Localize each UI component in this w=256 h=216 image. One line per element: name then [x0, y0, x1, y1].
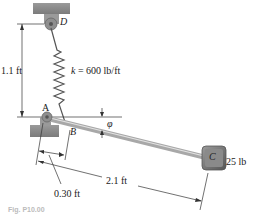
label-point-c: C [209, 152, 216, 162]
ground-support-a [30, 125, 59, 137]
label-height: 1.1 ft [1, 66, 22, 76]
label-point-a: A [42, 103, 49, 113]
label-short-length: 0.30 ft [54, 189, 80, 199]
label-long-length: 2.1 ft [106, 176, 127, 186]
spring [51, 28, 65, 122]
label-angle-phi: φ [107, 119, 113, 129]
ceiling-support [33, 3, 70, 14]
rod [46, 118, 208, 158]
label-point-d: D [60, 17, 67, 27]
label-weight: 25 lb [226, 157, 246, 167]
label-point-b: B [70, 127, 76, 137]
diagram-canvas [0, 0, 256, 216]
label-spring-constant: k = 600 lb/ft [71, 66, 120, 76]
figure-caption: Fig. P10.00 [8, 206, 45, 213]
